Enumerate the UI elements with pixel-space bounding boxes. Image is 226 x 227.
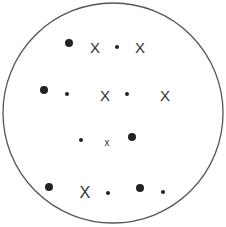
cross-particle-icon: x bbox=[105, 137, 110, 148]
small-particle-icon bbox=[125, 92, 129, 96]
cross-particle-icon: X bbox=[100, 87, 110, 104]
large-particle-icon bbox=[65, 39, 73, 47]
small-particle-icon bbox=[65, 92, 69, 96]
particle-diagram: XXXXxX bbox=[0, 0, 226, 227]
large-particle-icon bbox=[128, 133, 136, 141]
small-particle-icon bbox=[79, 138, 83, 142]
large-particle-icon bbox=[40, 86, 48, 94]
cross-particle-icon: X bbox=[80, 183, 91, 201]
small-particle-icon bbox=[115, 45, 119, 49]
small-particle-icon bbox=[161, 190, 165, 194]
cross-particle-icon: X bbox=[90, 39, 100, 56]
small-particle-icon bbox=[106, 191, 110, 195]
large-particle-icon bbox=[136, 184, 144, 192]
large-particle-icon bbox=[45, 183, 53, 191]
container-circle bbox=[3, 3, 223, 223]
particles-group: XXXXxX bbox=[40, 39, 170, 201]
cross-particle-icon: X bbox=[135, 39, 145, 56]
cross-particle-icon: X bbox=[160, 87, 170, 104]
